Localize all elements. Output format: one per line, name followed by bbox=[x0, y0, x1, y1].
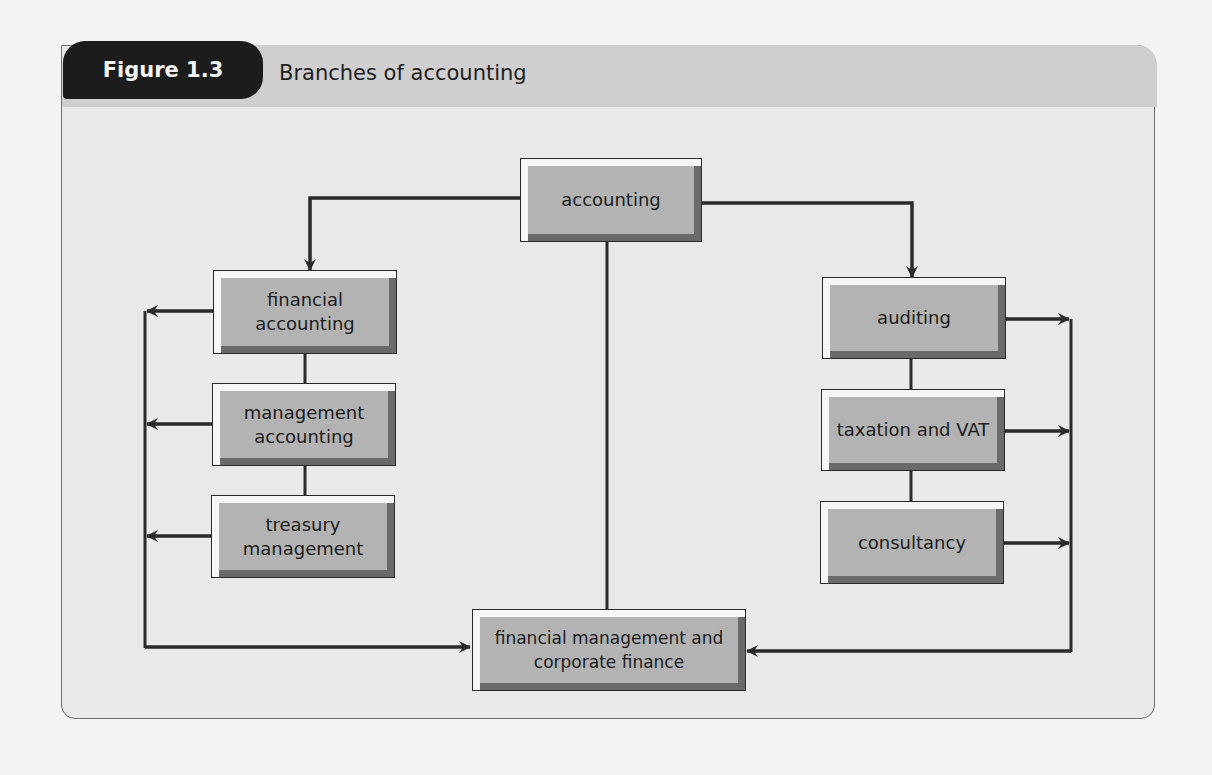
node-label: treasury management bbox=[212, 513, 394, 561]
node-management-accounting: management accounting bbox=[212, 383, 396, 466]
node-consultancy: consultancy bbox=[820, 501, 1004, 584]
node-financial-accounting: financial accounting bbox=[213, 270, 397, 354]
node-auditing: auditing bbox=[822, 277, 1006, 359]
node-label: financial management and corporate finan… bbox=[473, 626, 745, 674]
node-label: management accounting bbox=[213, 401, 395, 449]
node-treasury-management: treasury management bbox=[211, 495, 395, 578]
node-label: accounting bbox=[553, 188, 669, 212]
node-label: financial accounting bbox=[214, 288, 396, 336]
edge-accounting-financial bbox=[310, 198, 520, 270]
edge-accounting-auditing bbox=[702, 203, 912, 277]
node-label: consultancy bbox=[850, 531, 974, 555]
node-label: auditing bbox=[869, 306, 959, 330]
node-taxation-vat: taxation and VAT bbox=[821, 389, 1005, 471]
node-label: taxation and VAT bbox=[829, 418, 998, 442]
node-accounting: accounting bbox=[520, 158, 702, 242]
node-financial-management: financial management and corporate finan… bbox=[472, 609, 746, 691]
